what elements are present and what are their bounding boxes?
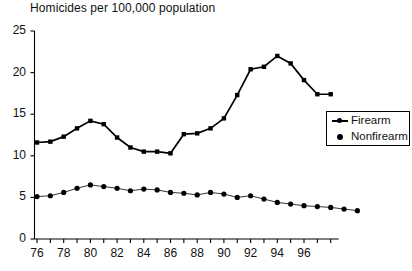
firearm-data-point xyxy=(168,151,172,155)
firearm-data-point xyxy=(88,119,92,123)
x-tick-label: 84 xyxy=(131,246,157,260)
firearm-data-point xyxy=(75,126,79,130)
nonfirearm-data-point xyxy=(155,187,160,192)
x-tick-label: 92 xyxy=(238,246,264,260)
firearm-data-point xyxy=(182,132,186,136)
firearm-data-point xyxy=(288,61,292,65)
x-tick-label: 88 xyxy=(184,246,210,260)
nonfirearm-data-point xyxy=(74,186,79,191)
firearm-data-point xyxy=(62,134,66,138)
nonfirearm-data-point xyxy=(341,206,346,211)
chart-title: Homicides per 100,000 population xyxy=(30,1,215,15)
x-tick-label: 94 xyxy=(264,246,290,260)
nonfirearm-data-point xyxy=(195,192,200,197)
data-series-group xyxy=(34,54,360,214)
firearm-data-point xyxy=(155,149,159,153)
firearm-data-point xyxy=(195,131,199,135)
nonfirearm-data-point xyxy=(355,208,360,213)
firearm-data-point xyxy=(262,65,266,69)
firearm-line xyxy=(37,56,331,153)
x-tick-label: 80 xyxy=(77,246,103,260)
axes-group xyxy=(35,31,339,239)
firearm-data-point xyxy=(222,116,226,120)
nonfirearm-dot-marker-icon xyxy=(331,131,349,142)
legend-label-nonfirearm: Nonfirearm xyxy=(351,131,408,142)
nonfirearm-data-point xyxy=(128,188,133,193)
nonfirearm-data-point xyxy=(34,194,39,199)
nonfirearm-data-point xyxy=(288,201,293,206)
y-tick-label: 0 xyxy=(2,231,26,245)
firearm-data-point xyxy=(102,122,106,126)
firearm-data-point xyxy=(142,149,146,153)
nonfirearm-data-point xyxy=(328,205,333,210)
nonfirearm-data-point xyxy=(248,193,253,198)
nonfirearm-data-point xyxy=(221,191,226,196)
x-tick-label: 76 xyxy=(24,246,50,260)
nonfirearm-data-point xyxy=(61,190,66,195)
firearm-data-point xyxy=(35,140,39,144)
x-tick-label: 90 xyxy=(211,246,237,260)
nonfirearm-data-point xyxy=(261,196,266,201)
nonfirearm-data-point xyxy=(208,190,213,195)
chart-legend: Firearm Nonfirearm xyxy=(326,111,410,146)
y-tick-label: 20 xyxy=(2,65,26,79)
nonfirearm-data-point xyxy=(115,186,120,191)
nonfirearm-data-point xyxy=(168,190,173,195)
x-tick-label: 82 xyxy=(104,246,130,260)
x-tick-label: 78 xyxy=(51,246,77,260)
firearm-data-point xyxy=(115,135,119,139)
nonfirearm-data-point xyxy=(181,191,186,196)
y-tick-label: 25 xyxy=(2,23,26,37)
nonfirearm-data-point xyxy=(141,186,146,191)
y-tick-label: 5 xyxy=(2,189,26,203)
firearm-data-point xyxy=(329,92,333,96)
chart-container: Homicides per 100,000 population 0510152… xyxy=(0,0,412,271)
nonfirearm-data-point xyxy=(88,182,93,187)
tick-marks-group xyxy=(31,31,331,243)
nonfirearm-data-point xyxy=(275,200,280,205)
nonfirearm-data-point xyxy=(101,184,106,189)
x-tick-label: 86 xyxy=(158,246,184,260)
firearm-data-point xyxy=(208,126,212,130)
firearm-data-point xyxy=(275,54,279,58)
firearm-line-marker-icon xyxy=(331,115,349,126)
nonfirearm-data-point xyxy=(235,195,240,200)
firearm-data-point xyxy=(235,93,239,97)
firearm-data-point xyxy=(128,145,132,149)
legend-label-firearm: Firearm xyxy=(351,115,391,126)
firearm-data-point xyxy=(315,92,319,96)
firearm-data-point xyxy=(248,67,252,71)
nonfirearm-data-point xyxy=(301,203,306,208)
legend-item-nonfirearm: Nonfirearm xyxy=(331,129,408,144)
nonfirearm-data-point xyxy=(315,204,320,209)
firearm-data-point xyxy=(48,139,52,143)
nonfirearm-data-point xyxy=(48,193,53,198)
firearm-data-point xyxy=(302,78,306,82)
nonfirearm-line xyxy=(37,185,357,211)
legend-item-firearm: Firearm xyxy=(331,113,391,128)
y-tick-label: 10 xyxy=(2,148,26,162)
x-tick-label: 96 xyxy=(291,246,317,260)
y-tick-label: 15 xyxy=(2,106,26,120)
